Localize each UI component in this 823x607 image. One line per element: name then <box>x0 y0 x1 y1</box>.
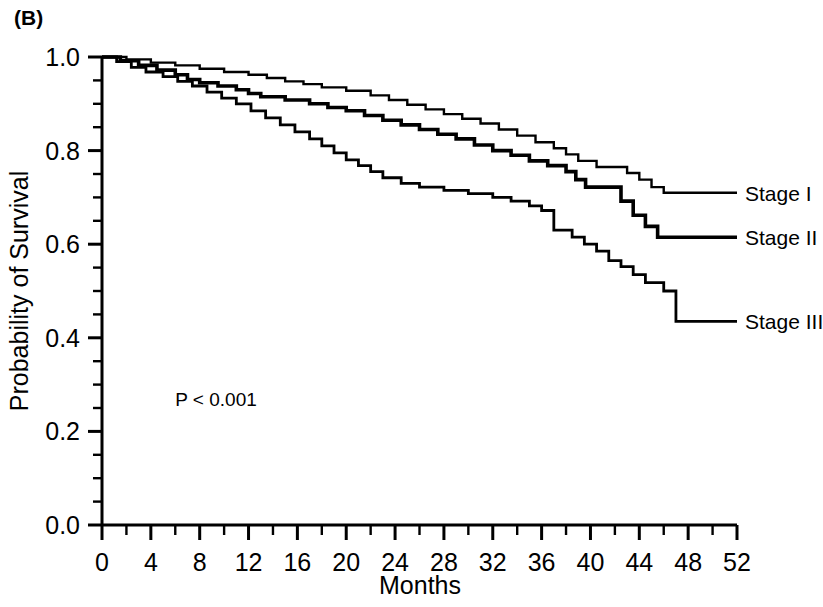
x-tick-label: 8 <box>193 548 207 576</box>
legend: Stage IStage IIStage III <box>745 182 823 334</box>
survival-curve-stage-ii <box>102 57 737 237</box>
x-tick-label: 44 <box>625 548 653 576</box>
x-tick-label: 4 <box>144 548 158 576</box>
y-axis-title: Probability of Survival <box>5 171 33 411</box>
survival-chart-figure: (B) 0.00.20.40.60.81.0 04812162024283236… <box>0 0 823 607</box>
y-tick-label: 0.8 <box>45 137 80 165</box>
x-tick-label: 0 <box>95 548 109 576</box>
y-tick-label: 0.0 <box>45 511 80 539</box>
panel-label: (B) <box>14 6 43 30</box>
legend-label-stage-i: Stage I <box>745 182 812 205</box>
x-tick-label: 16 <box>283 548 311 576</box>
y-tick-label: 0.2 <box>45 417 80 445</box>
x-tick-label: 36 <box>528 548 556 576</box>
x-tick-label: 52 <box>723 548 751 576</box>
survival-curve-stage-iii <box>102 57 737 321</box>
y-tick-label: 0.6 <box>45 230 80 258</box>
y-axis: 0.00.20.40.60.81.0 <box>45 43 102 539</box>
kaplan-meier-plot: 0.00.20.40.60.81.0 048121620242832364044… <box>0 0 823 607</box>
x-tick-label: 20 <box>332 548 360 576</box>
x-tick-label: 32 <box>479 548 507 576</box>
x-tick-label: 12 <box>235 548 263 576</box>
y-tick-label: 1.0 <box>45 43 80 71</box>
x-axis-title: Months <box>379 571 461 599</box>
x-tick-label: 48 <box>674 548 702 576</box>
survival-curves <box>102 57 737 321</box>
x-tick-label: 40 <box>577 548 605 576</box>
legend-label-stage-ii: Stage II <box>745 226 817 249</box>
legend-label-stage-iii: Stage III <box>745 310 823 333</box>
p-value-annotation: P < 0.001 <box>175 389 257 410</box>
y-tick-label: 0.4 <box>45 324 80 352</box>
x-axis: 0481216202428323640444852 <box>95 525 751 576</box>
